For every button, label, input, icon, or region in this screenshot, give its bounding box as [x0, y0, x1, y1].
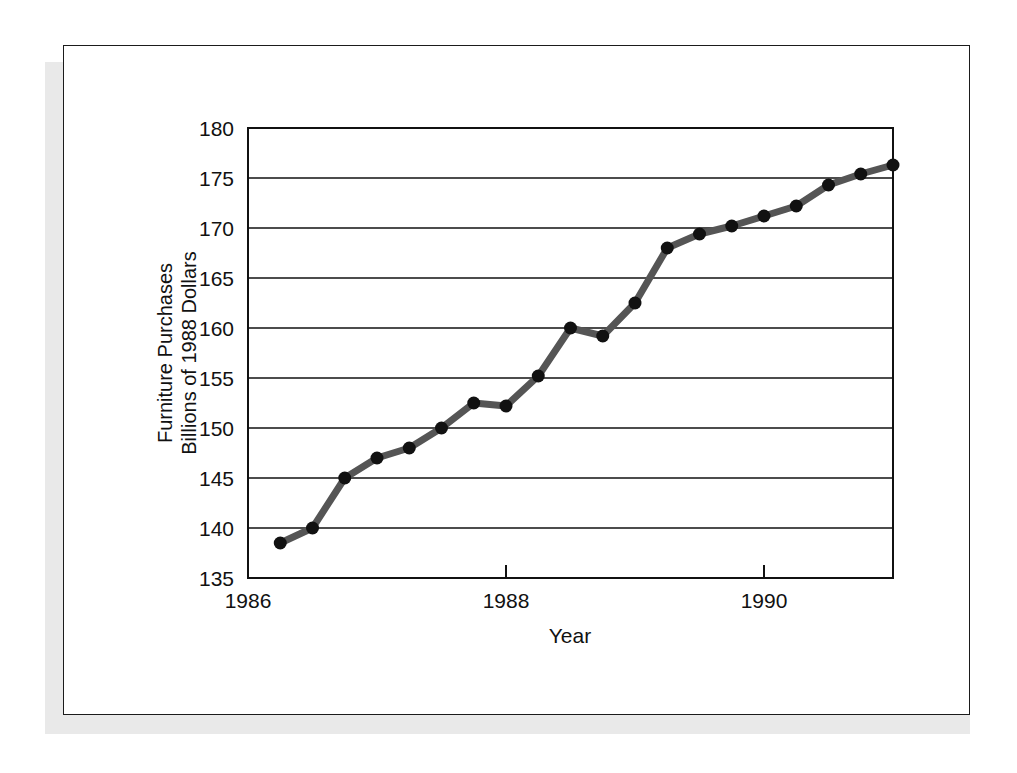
x-tick-label-1990: 1990 [741, 589, 788, 612]
y-tick-label-165: 165 [199, 267, 234, 290]
plot-border [248, 128, 893, 578]
x-tick-label-1988: 1988 [483, 589, 530, 612]
y-tick-label-145: 145 [199, 467, 234, 490]
data-point-13 [693, 228, 706, 241]
data-point-11 [629, 297, 642, 310]
y-axis-title-line-2: Billions of 1988 Dollars [178, 251, 200, 454]
data-point-0 [274, 537, 287, 550]
data-point-16 [790, 200, 803, 213]
data-point-9 [564, 322, 577, 335]
y-tick-label-180: 180 [199, 117, 234, 140]
plot-axes [248, 128, 893, 578]
y-tick-label-135: 135 [199, 567, 234, 590]
data-point-19 [887, 159, 900, 172]
data-point-10 [596, 330, 609, 343]
data-point-12 [661, 242, 674, 255]
data-point-3 [371, 452, 384, 465]
x-axis-title: Year [549, 624, 591, 647]
data-point-17 [822, 179, 835, 192]
data-point-7 [500, 400, 513, 413]
y-tick-label-150: 150 [199, 417, 234, 440]
data-point-4 [403, 442, 416, 455]
data-series-markers [274, 159, 900, 550]
data-point-18 [854, 168, 867, 181]
x-axis-ticks [506, 565, 764, 578]
y-tick-label-175: 175 [199, 167, 234, 190]
data-point-14 [725, 220, 738, 233]
chart-svg: 135140145150155160165170175180 198619881… [0, 0, 1017, 773]
data-point-15 [758, 210, 771, 223]
y-axis-tick-labels: 135140145150155160165170175180 [199, 117, 234, 590]
y-tick-label-170: 170 [199, 217, 234, 240]
data-point-2 [338, 472, 351, 485]
y-tick-label-155: 155 [199, 367, 234, 390]
data-point-1 [306, 522, 319, 535]
y-axis-title-line-1: Furniture Purchases [154, 263, 176, 443]
data-point-8 [532, 370, 545, 383]
x-tick-label-1986: 1986 [225, 589, 272, 612]
y-tick-label-160: 160 [199, 317, 234, 340]
y-tick-label-140: 140 [199, 517, 234, 540]
data-point-6 [467, 397, 480, 410]
line-chart: 135140145150155160165170175180 198619881… [0, 0, 1017, 773]
data-series-line [280, 165, 893, 543]
data-point-5 [435, 422, 448, 435]
x-axis-tick-labels: 198619881990 [225, 589, 788, 612]
